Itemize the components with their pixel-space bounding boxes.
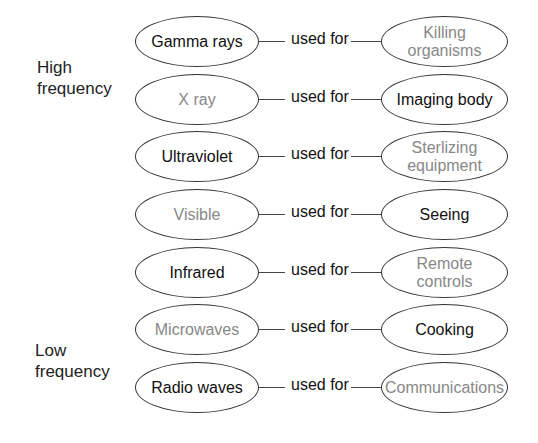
wave-type-node: Microwaves: [135, 304, 259, 355]
connector-line: [351, 156, 382, 157]
used-for-label: used for: [291, 203, 349, 221]
wave-type-label: Visible: [174, 206, 221, 224]
use-node: Sterlizing equipment: [381, 131, 508, 182]
connector-line: [351, 41, 382, 42]
diagram-row: Visibleused forSeeing: [0, 189, 538, 241]
used-for-label: used for: [291, 88, 349, 106]
diagram-row: Radio wavesused forCommunications: [0, 362, 538, 414]
used-for-label: used for: [291, 318, 349, 336]
diagram-row: Ultravioletused forSterlizing equipment: [0, 131, 538, 183]
use-node: Remote controls: [381, 247, 508, 298]
use-node: Killing organisms: [381, 16, 508, 67]
used-for-label: used for: [291, 30, 349, 48]
connector-line: [351, 99, 382, 100]
connector-line: [259, 272, 285, 273]
diagram-row: Infraredused forRemote controls: [0, 247, 538, 299]
wave-type-label: Infrared: [169, 264, 224, 282]
wave-type-label: Microwaves: [155, 321, 239, 339]
wave-type-node: Gamma rays: [135, 16, 259, 67]
wave-type-label: Ultraviolet: [161, 148, 232, 166]
wave-type-label: Gamma rays: [151, 33, 243, 51]
use-node: Seeing: [381, 189, 508, 240]
wave-type-node: X ray: [135, 74, 259, 125]
use-label: Sterlizing equipment: [397, 139, 492, 175]
used-for-label: used for: [291, 376, 349, 394]
connector-line: [259, 41, 285, 42]
diagram-row: Gamma raysused forKilling organisms: [0, 16, 538, 68]
used-for-label: used for: [291, 145, 349, 163]
connector-line: [259, 214, 285, 215]
connector-line: [351, 272, 382, 273]
wave-type-node: Infrared: [135, 247, 259, 298]
use-label: Remote controls: [397, 255, 492, 291]
diagram-row: Microwavesused forCooking: [0, 304, 538, 356]
wave-type-node: Visible: [135, 189, 259, 240]
connector-line: [259, 329, 285, 330]
use-label: Cooking: [415, 321, 474, 339]
connector-line: [259, 387, 285, 388]
wave-type-node: Ultraviolet: [135, 131, 259, 182]
use-node: Cooking: [381, 304, 508, 355]
connector-line: [351, 387, 382, 388]
wave-type-label: X ray: [178, 91, 215, 109]
use-label: Killing organisms: [397, 24, 492, 60]
connector-line: [259, 99, 285, 100]
use-label: Seeing: [420, 206, 470, 224]
connector-line: [351, 329, 382, 330]
connector-line: [259, 156, 285, 157]
use-label: Imaging body: [396, 91, 492, 109]
diagram-row: X rayused forImaging body: [0, 74, 538, 126]
wave-type-label: Radio waves: [151, 379, 243, 397]
wave-type-node: Radio waves: [135, 362, 259, 413]
used-for-label: used for: [291, 261, 349, 279]
connector-line: [351, 214, 382, 215]
use-node: Imaging body: [381, 74, 508, 125]
use-label: Communications: [385, 379, 504, 397]
use-node: Communications: [381, 362, 508, 413]
